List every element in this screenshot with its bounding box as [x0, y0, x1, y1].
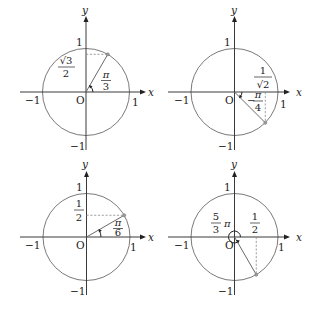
- origin-label: O: [225, 94, 234, 106]
- tick-neg-y: −1: [218, 140, 233, 152]
- tick-pos-y: 1: [224, 36, 231, 48]
- angle-denominator: 6: [115, 227, 121, 238]
- circle-point: [106, 53, 109, 56]
- x-axis-label: x: [296, 86, 302, 98]
- tick-pos-x: 1: [280, 98, 287, 110]
- projection-numerator: 1: [260, 65, 266, 76]
- tick-neg-y: −1: [70, 140, 85, 152]
- angle-ray: [235, 237, 257, 275]
- y-axis-arrow-icon: [84, 171, 89, 177]
- angle-numerator: 5: [213, 211, 219, 222]
- projection-denominator: 2: [76, 212, 82, 223]
- projection-denominator: 2: [63, 68, 69, 79]
- tick-pos-y: 1: [224, 181, 231, 193]
- y-axis-label: y: [230, 158, 238, 170]
- tick-neg-y: −1: [70, 285, 85, 297]
- x-axis-arrow-icon: [284, 235, 290, 240]
- unit-circle-figure: x y O 1 −1 1 −1 √3 2 π 3 x y O 1 −1 1 −1: [0, 0, 319, 313]
- origin-label: O: [76, 94, 85, 106]
- tick-neg-x: −1: [174, 94, 189, 106]
- angle-denominator: 3: [103, 81, 109, 92]
- y-axis-label: y: [81, 158, 89, 170]
- circle-point: [264, 121, 267, 124]
- tick-pos-x: 1: [130, 241, 137, 253]
- diagram-bottom-right: x y O 1 −1 1 −1 5 3 π 1 2: [168, 158, 302, 297]
- x-axis-label: x: [148, 86, 154, 98]
- tick-neg-y: −1: [218, 285, 233, 297]
- angle-numerator: π: [102, 69, 110, 80]
- tick-neg-x: −1: [25, 239, 40, 251]
- y-axis-label: y: [230, 4, 238, 16]
- origin-label: O: [76, 239, 85, 251]
- x-axis-arrow-icon: [140, 235, 146, 240]
- angle-denominator: 3: [213, 224, 219, 235]
- angle-numerator: π: [254, 89, 262, 100]
- projection-numerator: √3: [60, 55, 73, 66]
- tick-pos-x: 1: [278, 241, 285, 253]
- circle-point: [255, 273, 258, 276]
- diagram-bottom-left: x y O 1 −1 1 −1 1 2 π 6: [20, 158, 154, 297]
- x-axis-label: x: [296, 231, 302, 243]
- diagram-top-left: x y O 1 −1 1 −1 √3 2 π 3: [20, 4, 154, 152]
- tick-neg-x: −1: [25, 94, 40, 106]
- y-axis-arrow-icon: [84, 16, 89, 22]
- projection-denominator: 2: [252, 224, 258, 235]
- projection-numerator: 1: [252, 211, 258, 222]
- tick-pos-y: 1: [76, 181, 83, 193]
- y-axis-arrow-icon: [232, 16, 237, 22]
- angle-denominator: 4: [255, 102, 261, 113]
- tick-pos-y: 1: [76, 36, 83, 48]
- angle-suffix: π: [223, 218, 231, 229]
- x-axis-arrow-icon: [284, 90, 290, 95]
- y-axis-label: y: [81, 4, 89, 16]
- tick-pos-x: 1: [132, 96, 139, 108]
- y-axis-arrow-icon: [232, 171, 237, 177]
- diagram-top-right: x y O 1 −1 1 −1 1 √2 − π 4: [168, 4, 302, 152]
- x-axis-label: x: [148, 231, 154, 243]
- tick-neg-x: −1: [174, 239, 189, 251]
- projection-numerator: 1: [76, 198, 82, 209]
- x-axis-arrow-icon: [140, 90, 146, 95]
- circle-point: [123, 214, 126, 217]
